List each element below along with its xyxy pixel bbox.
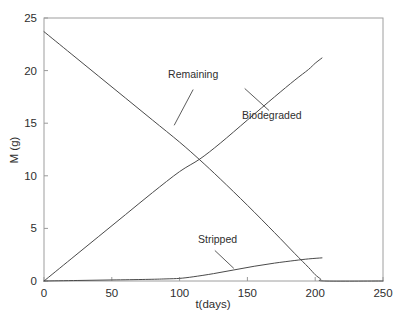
series-label-biodegraded: Biodegraded: [242, 109, 302, 121]
y-axis-tick-labels: 0510152025: [24, 12, 37, 287]
x-tick-label: 150: [238, 287, 257, 299]
x-tick-label: 200: [306, 287, 325, 299]
x-tick-label: 100: [170, 287, 189, 299]
leader-line-stripped: [215, 250, 234, 268]
y-axis-title: M (g): [8, 136, 20, 163]
series-label-remaining: Remaining: [168, 68, 218, 80]
x-tick-label: 50: [105, 287, 118, 299]
y-axis-ticks: [44, 18, 48, 281]
series-line-biodegraded: [44, 58, 322, 281]
y-tick-label: 0: [31, 275, 37, 287]
y-tick-label: 25: [24, 12, 37, 24]
y-tick-label: 15: [24, 117, 37, 129]
y-tick-label: 10: [24, 170, 37, 182]
y-tick-label: 20: [24, 65, 37, 77]
x-tick-label: 250: [373, 287, 392, 299]
series-line-stripped: [44, 258, 322, 281]
series-label-stripped: Stripped: [198, 233, 237, 245]
line-chart-svg: 0510152025 050100150200250 RemainingBiod…: [0, 0, 412, 318]
series-annotations: RemainingBiodegradedStripped: [168, 68, 302, 268]
x-tick-label: 0: [41, 287, 47, 299]
y-tick-label: 5: [31, 222, 37, 234]
leader-line-remaining: [174, 90, 193, 126]
leader-line-biodegraded: [245, 88, 269, 110]
x-axis-title: t(days): [195, 298, 230, 310]
chart-figure: 0510152025 050100150200250 RemainingBiod…: [0, 0, 412, 318]
